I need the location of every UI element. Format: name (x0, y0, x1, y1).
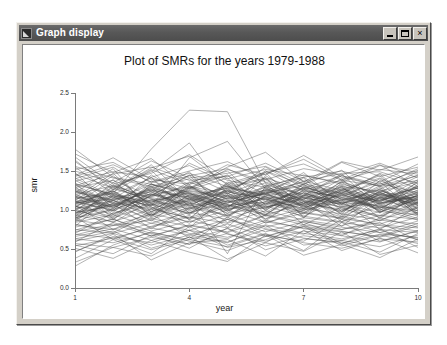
graph-window-icon (21, 28, 32, 39)
y-tick-label: 2.5 (60, 89, 69, 96)
x-tick-label: 7 (302, 294, 306, 301)
close-button[interactable]: × (413, 27, 427, 40)
graph-display-window: Graph display × Plot of SMRs for the yea… (16, 22, 431, 325)
y-tick-label: 1.5 (60, 167, 69, 174)
x-tick-label: 10 (414, 294, 422, 301)
smr-line-chart: Plot of SMRs for the years 1979-1988 0.0… (23, 45, 425, 319)
series-lines-group (75, 110, 418, 266)
window-buttons-group: × (383, 27, 427, 40)
series-line (75, 228, 418, 254)
minimize-icon (384, 28, 396, 39)
maximize-icon (399, 28, 411, 39)
chart-title: Plot of SMRs for the years 1979-1988 (124, 54, 325, 68)
x-axis-title: year (216, 303, 234, 313)
close-icon: × (414, 28, 426, 39)
series-line (75, 234, 418, 250)
y-tick-label: 2.0 (60, 128, 69, 135)
desktop-background: Graph display × Plot of SMRs for the yea… (0, 0, 447, 345)
maximize-button[interactable] (398, 27, 412, 40)
window-title-bar[interactable]: Graph display × (19, 25, 428, 41)
plot-canvas: Plot of SMRs for the years 1979-1988 0.0… (22, 44, 425, 319)
x-tick-group: 14710 (73, 288, 422, 301)
y-tick-group: 0.00.51.01.52.02.5 (60, 89, 75, 291)
y-tick-label: 0.5 (60, 245, 69, 252)
y-tick-label: 1.0 (60, 206, 69, 213)
x-tick-label: 1 (73, 294, 77, 301)
y-tick-label: 0.0 (60, 284, 69, 291)
y-axis-title: smr (29, 178, 39, 193)
x-tick-label: 4 (188, 294, 192, 301)
series-line (75, 226, 418, 249)
minimize-button[interactable] (383, 27, 397, 40)
window-title: Graph display (36, 27, 383, 39)
